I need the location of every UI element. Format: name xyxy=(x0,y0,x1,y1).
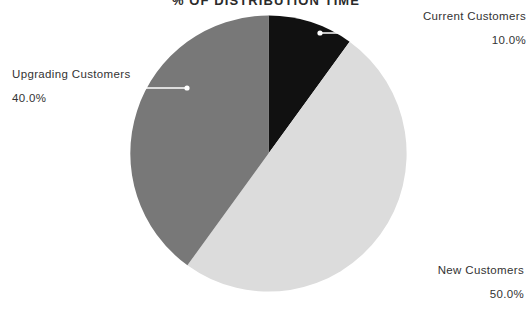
callout-new-customers-value: 50.0% xyxy=(438,288,524,300)
callout-new-customers-label: New Customers xyxy=(438,264,524,276)
callout-upgrading-customers: Upgrading Customers 40.0% xyxy=(12,68,131,104)
pie-svg xyxy=(130,15,407,292)
callout-current-customers-value: 10.0% xyxy=(423,34,526,46)
callout-upgrading-customers-label: Upgrading Customers xyxy=(12,68,131,80)
pie-chart-screenshot: % OF DISTRIBUTION TIME Current Customers… xyxy=(0,0,532,333)
callout-current-customers-label: Current Customers xyxy=(423,10,526,22)
pie-chart xyxy=(130,15,407,292)
callout-upgrading-customers-value: 40.0% xyxy=(12,92,131,104)
page-title: % OF DISTRIBUTION TIME xyxy=(0,0,532,8)
callout-current-customers: Current Customers 10.0% xyxy=(423,10,526,46)
callout-new-customers: New Customers 50.0% xyxy=(438,264,524,300)
